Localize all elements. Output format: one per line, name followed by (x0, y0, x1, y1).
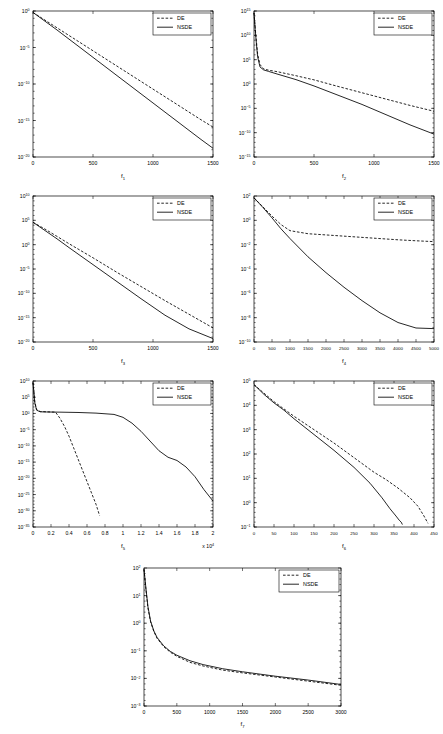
svg-text:200: 200 (330, 531, 338, 536)
svg-text:250: 250 (350, 531, 358, 536)
svg-text:f3: f3 (121, 358, 126, 366)
svg-text:1.4: 1.4 (155, 530, 162, 536)
svg-text:1010: 1010 (20, 193, 30, 199)
panel-f4: 10210010−210−410−610−810−100500100015002… (221, 185, 443, 370)
svg-text:10−5: 10−5 (20, 266, 30, 272)
svg-text:300: 300 (370, 531, 378, 536)
svg-text:400: 400 (410, 531, 418, 536)
svg-text:NSDE: NSDE (398, 209, 413, 215)
svg-text:DE: DE (177, 15, 185, 21)
svg-text:100: 100 (243, 217, 251, 223)
svg-text:DE: DE (398, 15, 406, 21)
svg-text:10−1: 10−1 (131, 648, 141, 654)
svg-text:103: 103 (243, 427, 251, 433)
svg-text:1500: 1500 (303, 346, 313, 351)
svg-text:0.6: 0.6 (83, 530, 90, 536)
svg-text:101: 101 (243, 475, 251, 481)
svg-text:1: 1 (122, 530, 125, 536)
svg-text:10−3: 10−3 (131, 703, 141, 709)
svg-text:DE: DE (303, 572, 311, 578)
svg-text:100: 100 (290, 531, 298, 536)
svg-text:0: 0 (253, 531, 256, 536)
svg-text:NSDE: NSDE (398, 24, 413, 30)
svg-text:105: 105 (22, 217, 30, 223)
svg-text:f4: f4 (342, 358, 347, 366)
svg-text:2000: 2000 (270, 709, 281, 715)
svg-text:0: 0 (32, 160, 35, 166)
plot-f2: 1015101010510010−510−1010−15050010001500… (221, 0, 443, 185)
svg-text:100: 100 (133, 620, 141, 626)
svg-text:105: 105 (243, 57, 251, 63)
svg-text:102: 102 (133, 565, 141, 571)
svg-text:10−15: 10−15 (18, 459, 30, 465)
svg-text:NSDE: NSDE (398, 394, 413, 400)
svg-text:10−10: 10−10 (18, 443, 30, 449)
svg-text:1000: 1000 (147, 160, 158, 166)
svg-text:350: 350 (390, 531, 398, 536)
svg-text:NSDE: NSDE (177, 24, 192, 30)
svg-text:10−10: 10−10 (18, 81, 30, 87)
svg-text:50: 50 (272, 531, 277, 536)
svg-text:10−20: 10−20 (18, 475, 30, 481)
svg-text:0: 0 (253, 160, 256, 166)
svg-text:10−4: 10−4 (241, 266, 251, 272)
svg-text:10−15: 10−15 (18, 118, 30, 124)
svg-text:500: 500 (310, 160, 319, 166)
figure-canvas: 10010−510−1010−1510−20050010001500f1DENS… (0, 0, 443, 734)
svg-text:150: 150 (310, 531, 318, 536)
svg-text:f5: f5 (121, 543, 126, 551)
svg-text:3000: 3000 (335, 709, 346, 715)
svg-text:10−10: 10−10 (18, 290, 30, 296)
svg-text:NSDE: NSDE (303, 581, 318, 587)
svg-text:100: 100 (22, 242, 30, 248)
svg-text:10−20: 10−20 (18, 339, 30, 345)
svg-text:10−6: 10−6 (241, 290, 251, 296)
svg-text:0: 0 (253, 346, 256, 351)
svg-text:4000: 4000 (393, 346, 403, 351)
plot-f3: 101010510010−510−1010−1510−2005001000150… (0, 185, 222, 370)
panel-f7: 10210110010−110−210−30500100015002000250… (110, 558, 350, 734)
svg-text:5000: 5000 (429, 346, 439, 351)
svg-text:DE: DE (398, 385, 406, 391)
svg-text:105: 105 (243, 378, 251, 384)
svg-text:f2: f2 (342, 173, 347, 181)
svg-text:10−2: 10−2 (131, 675, 141, 681)
svg-text:0.2: 0.2 (47, 530, 54, 536)
panel-f6: 10510410310210110010−1050100150200250300… (221, 370, 443, 562)
svg-text:1000: 1000 (204, 709, 215, 715)
svg-text:102: 102 (243, 193, 251, 199)
svg-text:100: 100 (243, 81, 251, 87)
plot-f1: 10010−510−1010−1510−20050010001500f1DENS… (0, 0, 222, 185)
svg-text:x 104: x 104 (202, 543, 214, 549)
svg-text:101: 101 (133, 593, 141, 599)
svg-text:1500: 1500 (207, 160, 218, 166)
svg-text:NSDE: NSDE (177, 394, 192, 400)
svg-text:1000: 1000 (147, 345, 158, 351)
svg-text:2000: 2000 (321, 346, 331, 351)
svg-text:1500: 1500 (237, 709, 248, 715)
panel-f5: 101010510010−510−1010−1510−2010−2510−301… (0, 370, 222, 562)
svg-text:100: 100 (22, 8, 30, 14)
svg-text:1015: 1015 (241, 8, 251, 14)
svg-text:0: 0 (32, 530, 35, 536)
svg-text:0.4: 0.4 (65, 530, 72, 536)
svg-text:NSDE: NSDE (177, 209, 192, 215)
plot-f7: 10210110010−110−210−30500100015002000250… (110, 558, 350, 734)
svg-text:100: 100 (22, 410, 30, 416)
svg-text:10−15: 10−15 (18, 315, 30, 321)
svg-text:3500: 3500 (375, 346, 385, 351)
svg-text:1000: 1000 (368, 160, 379, 166)
svg-text:2500: 2500 (339, 346, 349, 351)
svg-text:10−5: 10−5 (241, 105, 251, 111)
svg-text:1010: 1010 (241, 32, 251, 38)
svg-text:10−35: 10−35 (18, 524, 30, 530)
svg-text:DE: DE (177, 200, 185, 206)
svg-text:10−8: 10−8 (241, 315, 251, 321)
svg-text:2500: 2500 (302, 709, 313, 715)
svg-text:10−30: 10−30 (18, 508, 30, 514)
svg-text:500: 500 (89, 160, 98, 166)
svg-text:2: 2 (212, 530, 215, 536)
plot-f5: 101010510010−510−1010−1510−2010−2510−301… (0, 370, 222, 562)
svg-text:450: 450 (430, 531, 438, 536)
svg-text:f6: f6 (342, 543, 347, 551)
